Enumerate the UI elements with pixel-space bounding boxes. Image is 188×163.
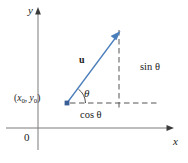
origin-label: 0 (24, 132, 30, 143)
base-point-paren-close: ) (37, 93, 40, 103)
vector-u-shaft (67, 37, 117, 104)
vector-diagram-figure: y x 0 u θ sin θ cos θ (x0, y0) (0, 0, 188, 163)
x-axis (6, 125, 174, 131)
vector-u-arrowhead-icon (111, 31, 121, 40)
x-axis-arrowhead-icon (167, 125, 175, 131)
sin-theta-label: sin θ (140, 62, 160, 73)
angle-theta-label: θ (84, 88, 89, 99)
x-axis-label: x (173, 136, 178, 147)
y-axis-label: y (28, 5, 33, 16)
vector-u-label: u (79, 55, 85, 65)
base-point-label: (x0, y0) (14, 94, 40, 104)
y-axis-arrowhead-icon (35, 7, 41, 15)
y-axis (35, 7, 41, 150)
vector-base-point-marker (65, 101, 70, 106)
vector-u (65, 31, 121, 105)
cos-theta-label: cos θ (80, 110, 102, 121)
